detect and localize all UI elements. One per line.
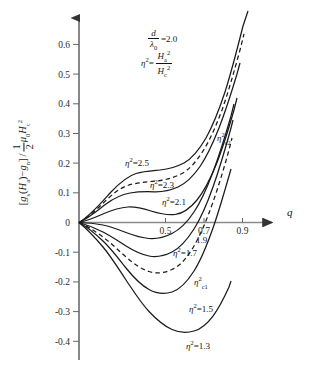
- curve-label-eta2-c2: η2c2: [217, 131, 231, 146]
- y-axis-tick-labels: 0.6 0.5 0.4 0.3 0.2 0.1 0 -0.1 -0.2 -0.3…: [55, 40, 70, 347]
- curve-label-eta2-2.5: η2=2.5: [125, 156, 150, 168]
- data-curves: [79, 11, 248, 332]
- y-tick-0.3: 0.3: [58, 129, 70, 139]
- plot-svg: 0.6 0.5 0.4 0.3 0.2 0.1 0 -0.1 -0.2 -0.3…: [0, 0, 312, 373]
- curve-label-eta2-c1: η2c1: [194, 275, 208, 290]
- y-tick-0.2: 0.2: [58, 159, 70, 169]
- y-tick-0.6: 0.6: [58, 40, 70, 50]
- y-tick-0.1: 0.1: [58, 188, 70, 198]
- y-axis-ticks: [73, 44, 79, 341]
- curve-label-eta2-1.7: η2=1.7: [173, 246, 198, 258]
- curve-eta2-c1: [79, 138, 232, 273]
- axes: [79, 18, 272, 360]
- y-tick-neg0.3: -0.3: [55, 307, 70, 317]
- y-tick-0.5: 0.5: [58, 70, 70, 80]
- curve-label-eta2-2.3: η2=2.3: [150, 178, 175, 190]
- curve-eta2-1.9: [79, 104, 234, 239]
- x-tick-0.9: 0.9: [237, 226, 249, 236]
- y-tick-neg0.2: -0.2: [55, 277, 70, 287]
- y-tick-0: 0: [65, 218, 70, 228]
- chart-container: [gs(Ha)−gn] / 12μ0Hc2 dλ0 =2.0 η2= Ha2Hc…: [0, 0, 312, 373]
- y-tick-neg0.1: -0.1: [55, 248, 70, 258]
- curve-label-eta2-1.9: 1.9: [196, 235, 208, 245]
- curve-label-eta2-1.3: η2=1.3: [186, 339, 211, 351]
- x-axis-label: q: [287, 206, 293, 218]
- curve-eta2-2.1: [79, 98, 237, 223]
- curve-labels: η2=2.5 η2=2.3 η2c2 η2=2.1 1.9 η2=1.7 η2c…: [125, 131, 231, 351]
- y-tick-neg0.4: -0.4: [55, 337, 70, 347]
- curve-label-eta2-2.1: η2=2.1: [162, 195, 186, 207]
- curve-label-eta2-1.5: η2=1.5: [189, 302, 214, 314]
- y-tick-0.4: 0.4: [58, 99, 70, 109]
- curve-eta2-c2: [79, 63, 240, 223]
